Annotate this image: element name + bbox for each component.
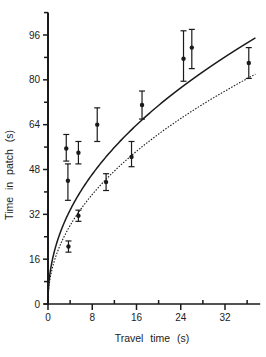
x-tick-label: 8: [89, 312, 95, 323]
x-axis: 08162432: [44, 300, 260, 323]
point-marker: [190, 45, 194, 49]
data-point: [63, 134, 69, 161]
point-marker: [64, 146, 68, 150]
y-tick-label: 48: [29, 164, 41, 175]
y-tick-label: 64: [29, 119, 41, 130]
x-axis-title: Travel time (s): [115, 332, 190, 344]
model-solid-curve: [48, 38, 255, 304]
point-marker: [247, 61, 251, 65]
point-marker: [181, 57, 185, 61]
data-point: [129, 141, 135, 166]
data-point: [94, 108, 100, 142]
y-tick-label: 16: [29, 254, 41, 265]
point-marker: [95, 122, 99, 126]
x-tick-label: 24: [175, 312, 187, 323]
x-tick-label: 32: [219, 312, 231, 323]
data-point: [65, 241, 71, 252]
data-point: [181, 31, 187, 81]
point-marker: [129, 155, 133, 159]
y-tick-label: 32: [29, 209, 41, 220]
data-point: [246, 48, 252, 79]
x-tick-label: 0: [45, 312, 51, 323]
y-tick-label: 0: [34, 299, 40, 310]
y-axis: 0163248648096: [29, 13, 48, 310]
plot-area: [48, 29, 255, 304]
point-marker: [76, 214, 80, 218]
y-tick-label: 80: [29, 74, 41, 85]
data-point: [103, 174, 109, 191]
data-point: [75, 210, 81, 221]
point-marker: [66, 244, 70, 248]
model-dotted-curve: [48, 74, 255, 304]
x-tick-label: 16: [131, 312, 143, 323]
point-marker: [76, 150, 80, 154]
data-point: [139, 91, 145, 119]
point-marker: [140, 103, 144, 107]
data-point: [75, 141, 81, 163]
y-tick-label: 96: [29, 30, 41, 41]
data-point: [65, 164, 71, 200]
point-marker: [66, 179, 70, 183]
data-point: [189, 29, 195, 68]
y-axis-title: Time in patch (s): [3, 130, 15, 220]
point-marker: [104, 180, 108, 184]
chart: 08162432 0163248648096 Travel time (s) T…: [0, 0, 266, 357]
